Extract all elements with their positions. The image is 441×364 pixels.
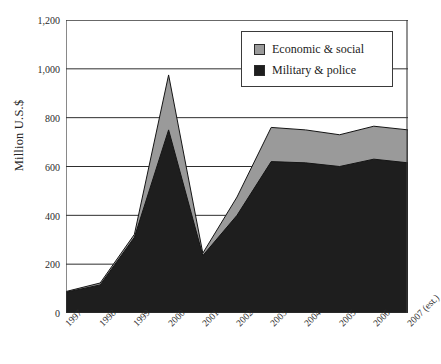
legend-item-military-police: Military & police (254, 60, 392, 81)
legend-item-economic-social: Economic & social (254, 39, 392, 60)
x-tick-label-2007-est-: 2007 (est.) (406, 293, 441, 328)
legend-swatch-economic-social-icon (254, 44, 265, 55)
legend-label-economic-social: Economic & social (272, 42, 364, 57)
y-tick-label-1000: 1,000 (14, 65, 60, 75)
legend-swatch-military-police-icon (254, 65, 265, 76)
y-tick-label-0: 0 (14, 309, 60, 319)
y-tick-label-400: 400 (14, 212, 60, 222)
y-tick-label-800: 800 (14, 114, 60, 124)
y-axis-tick-labels: 1,200 1,000 800 600 400 200 0 (14, 0, 60, 364)
legend: Economic & social Military & police (241, 31, 393, 87)
y-tick-label-200: 200 (14, 260, 60, 270)
legend-label-military-police: Military & police (272, 63, 356, 78)
y-tick-label-1200: 1,200 (14, 16, 60, 26)
y-tick-label-600: 600 (14, 163, 60, 173)
